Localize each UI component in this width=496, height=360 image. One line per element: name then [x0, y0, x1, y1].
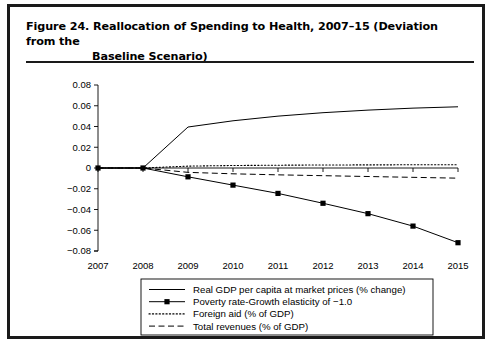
x-axis-tick-label: 2014 [402, 260, 423, 271]
x-axis-tick-label: 2009 [177, 260, 198, 271]
y-axis-tick-label: 0.06 [73, 100, 92, 111]
x-axis-tick-label: 2011 [268, 260, 288, 271]
legend-item-label: Total revenues (% of GDP) [193, 321, 308, 332]
y-axis-tick-label: 0 [86, 162, 91, 173]
y-axis-tick-label: 0.08 [73, 79, 92, 90]
x-axis-tick-label: 2008 [132, 260, 153, 271]
y-axis-tick-label: −0.06 [67, 225, 91, 236]
series-data-point [455, 240, 460, 245]
series-data-point [230, 183, 235, 188]
series-data-point [410, 224, 415, 229]
x-axis-tick-label: 2010 [222, 260, 243, 271]
chart-plot-area: 0.080.060.040.020−0.02−0.04−0.06−0.08200… [10, 7, 488, 342]
y-axis-tick-label: 0.04 [73, 121, 92, 132]
series-data-point [365, 211, 370, 216]
x-axis-tick-label: 2015 [447, 260, 468, 271]
y-axis-tick-label: −0.08 [67, 245, 91, 256]
x-axis-tick-label: 2007 [87, 260, 108, 271]
line-chart: 0.080.060.040.020−0.02−0.04−0.06−0.08200… [10, 7, 488, 342]
y-axis-tick-label: −0.04 [67, 204, 91, 215]
series-data-point [275, 191, 280, 196]
legend-marker-sample [164, 299, 169, 304]
x-axis-tick-label: 2012 [312, 260, 333, 271]
legend-item-label: Real GDP per capita at market prices (% … [193, 284, 406, 295]
series-data-point [185, 174, 190, 179]
x-axis-tick-label: 2013 [357, 260, 378, 271]
y-axis-tick-label: 0.02 [73, 142, 92, 153]
y-axis-tick-label: −0.02 [67, 183, 91, 194]
figure-frame: Figure 24. Reallocation of Spending to H… [7, 4, 485, 339]
series-line [98, 168, 458, 243]
legend-item-label: Foreign aid (% of GDP) [193, 308, 294, 319]
series-line [98, 107, 458, 168]
series-line [98, 165, 458, 168]
series-data-point [320, 201, 325, 206]
legend-item-label: Poverty rate-Growth elasticity of −1.0 [193, 296, 353, 307]
